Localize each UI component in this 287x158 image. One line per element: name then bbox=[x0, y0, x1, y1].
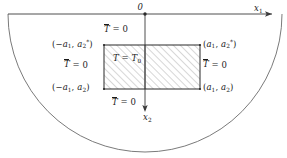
corner-label-top-right: (a1, a2*) bbox=[203, 39, 237, 50]
corner-dot-bottom-left bbox=[103, 88, 105, 90]
origin-dot bbox=[143, 12, 146, 15]
axis-x2-label: x2 bbox=[143, 113, 152, 123]
axis-x1-label: x1 bbox=[254, 4, 263, 14]
corner-label-bottom-left: (−a1, a2) bbox=[52, 83, 90, 93]
interior-temperature-label: T = T0 bbox=[113, 54, 141, 64]
corner-dot-top-right bbox=[199, 44, 201, 46]
boundary-condition-right: T = 0 bbox=[203, 60, 227, 69]
thermal-boundary-value-diagram: 0 x1 x2 T = 0 T = 0 T = 0 T = 0 T = T0 (… bbox=[0, 0, 287, 158]
corner-dot-top-left bbox=[103, 44, 105, 46]
hatched-rectangle bbox=[104, 45, 200, 89]
corner-label-top-left: (−a1, a2*) bbox=[52, 39, 93, 50]
diagram-canvas bbox=[0, 0, 287, 158]
boundary-condition-left: T = 0 bbox=[64, 60, 88, 69]
corner-label-bottom-right: (a1, a2) bbox=[203, 83, 233, 93]
origin-label: 0 bbox=[138, 3, 144, 12]
boundary-condition-bottom: T = 0 bbox=[112, 97, 136, 106]
boundary-condition-top: T = 0 bbox=[104, 24, 128, 33]
corner-dot-bottom-right bbox=[199, 88, 201, 90]
